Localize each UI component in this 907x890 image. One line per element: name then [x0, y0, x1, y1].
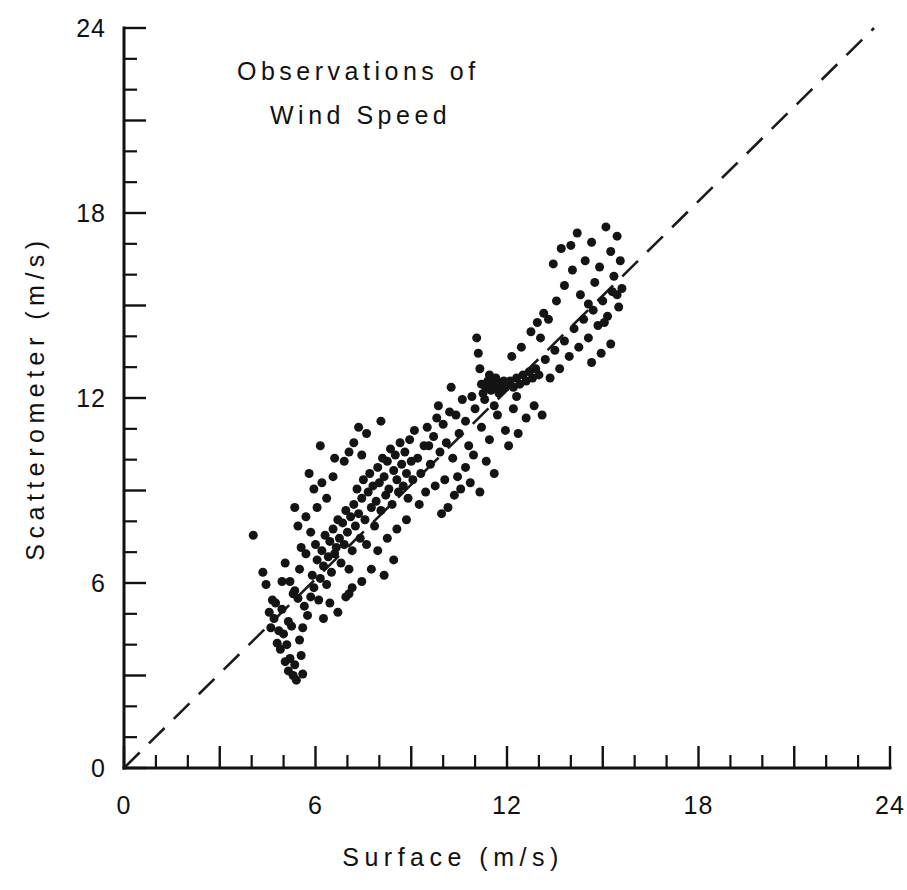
scatter-point — [485, 435, 494, 444]
scatter-point — [284, 617, 293, 626]
scatter-point — [546, 373, 555, 382]
scatter-point — [362, 540, 371, 549]
wind-speed-scatter-figure: Observations of Wind Speed 06121824 0612… — [0, 0, 907, 890]
scatter-point — [475, 488, 484, 497]
scatter-point — [392, 525, 401, 534]
scatter-point — [606, 340, 615, 349]
scatter-point — [340, 457, 349, 466]
scatter-point — [557, 244, 566, 253]
scatter-point — [352, 484, 361, 493]
y-axis-tick-labels: 06121824 — [76, 14, 106, 782]
scatter-point — [345, 447, 354, 456]
scatter-point — [440, 475, 449, 484]
scatter-point — [384, 484, 393, 493]
scatter-point — [431, 481, 440, 490]
scatter-point — [279, 629, 288, 638]
scatter-point — [388, 500, 397, 509]
scatter-point — [584, 299, 593, 308]
scatter-point — [437, 509, 446, 518]
scatter-point — [601, 222, 610, 231]
scatter-point — [298, 623, 307, 632]
scatter-point — [538, 410, 547, 419]
scatter-point — [469, 451, 478, 460]
scatter-point — [367, 565, 376, 574]
scatter-point — [289, 589, 298, 598]
scatter-point — [576, 290, 585, 299]
scatter-point — [482, 457, 491, 466]
scatter-point — [305, 469, 314, 478]
scatter-point — [357, 577, 366, 586]
scatter-point — [590, 278, 599, 287]
y-axis-ticks — [124, 28, 146, 768]
scatter-point — [581, 256, 590, 265]
scatter-point — [349, 438, 358, 447]
scatter-point — [480, 395, 489, 404]
scatter-point — [325, 599, 334, 608]
scatter-point — [565, 352, 574, 361]
scatter-point — [472, 333, 481, 342]
scatter-point — [322, 494, 331, 503]
scatter-point — [340, 540, 349, 549]
scatter-point — [380, 571, 389, 580]
scatter-point — [490, 469, 499, 478]
scatter-point — [541, 355, 550, 364]
scatter-point — [509, 404, 518, 413]
scatter-point — [249, 531, 258, 540]
scatter-points-group — [249, 222, 627, 684]
scatter-point — [322, 580, 331, 589]
scatter-point — [587, 358, 596, 367]
x-tick-label: 24 — [875, 791, 905, 819]
scatter-point — [376, 417, 385, 426]
scatter-point — [337, 558, 346, 567]
scatter-point — [277, 577, 286, 586]
scatter-point — [365, 469, 374, 478]
scatter-point — [405, 435, 414, 444]
scatter-point — [327, 568, 336, 577]
y-tick-label: 18 — [76, 199, 106, 227]
scatter-point — [345, 565, 354, 574]
scatter-point — [319, 562, 328, 571]
scatter-plot-svg: Observations of Wind Speed 06121824 0612… — [0, 0, 907, 890]
scatter-point — [606, 247, 615, 256]
scatter-point — [584, 333, 593, 342]
scatter-point — [560, 281, 569, 290]
scatter-point — [517, 343, 526, 352]
plot-title-line-2: Wind Speed — [270, 101, 451, 129]
scatter-point — [404, 494, 413, 503]
scatter-point — [295, 565, 304, 574]
scatter-point — [595, 262, 604, 271]
scatter-point — [268, 595, 277, 604]
scatter-point — [477, 423, 486, 432]
y-tick-label: 12 — [76, 384, 106, 412]
scatter-point — [317, 478, 326, 487]
scatter-point — [514, 429, 523, 438]
scatter-point — [348, 546, 357, 555]
scatter-point — [285, 577, 294, 586]
scatter-point — [360, 515, 369, 524]
scatter-point — [397, 460, 406, 469]
scatter-point — [549, 259, 558, 268]
scatter-point — [448, 454, 457, 463]
scatter-point — [458, 395, 467, 404]
plot-title-group: Observations of Wind Speed — [237, 57, 480, 129]
scatter-point — [408, 475, 417, 484]
scatter-point — [282, 640, 291, 649]
scatter-point — [297, 543, 306, 552]
x-axis-title: Surface (m/s) — [342, 843, 564, 871]
scatter-point — [598, 296, 607, 305]
scatter-point — [262, 580, 271, 589]
scatter-point — [536, 333, 545, 342]
scatter-point — [616, 256, 625, 265]
scatter-point — [345, 589, 354, 598]
scatter-point — [512, 392, 521, 401]
scatter-point — [362, 429, 371, 438]
scatter-point — [416, 469, 425, 478]
scatter-point — [568, 266, 577, 275]
scatter-point — [383, 457, 392, 466]
scatter-point — [566, 241, 575, 250]
scatter-point — [293, 521, 302, 530]
scatter-point — [552, 296, 561, 305]
scatter-point — [539, 309, 548, 318]
scatter-point — [303, 611, 312, 620]
scatter-point — [346, 512, 355, 521]
